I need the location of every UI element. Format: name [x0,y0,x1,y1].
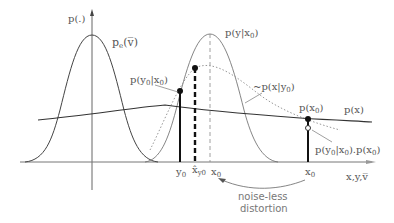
py0x0-c: ) [164,74,168,85]
y-axis-label: p(.) [68,14,85,24]
tick-xhat-sub: y0 [198,169,206,177]
tick-x0-right: x0 [305,167,315,179]
posterior-label: ~p(x|y0) [253,82,295,94]
tick-y0-sub: 0 [182,171,186,179]
annotation-noiseless: noise-less [238,192,288,202]
distortion-arrow [222,180,305,188]
likelihood-label: p(y|x0) [225,28,258,40]
pyx0-close: ) [254,27,258,38]
prod-c: ).p(x [349,144,372,155]
tick-x0-left: x0 [211,167,221,179]
py0x0-a: p(y [130,74,146,85]
diagram-canvas [0,0,394,223]
product-label: p(y0|x0).p(x0) [315,145,380,157]
annotation-distortion: distortion [240,204,288,214]
y0-dot [177,88,183,94]
prod-a: p(y [315,144,331,155]
leader-pxy0 [245,93,262,103]
xhat-dot [192,65,198,71]
tick-x0b-sub: 0 [311,171,315,179]
noise-pdf-label: pe(v̅) [112,37,138,50]
pe-text: p [112,36,119,49]
x-axis-arrow-icon [366,160,376,164]
prod-d: ) [376,144,380,155]
pxy0-text: ~p(x|y [253,81,286,92]
pe-arg: (v̅) [123,36,138,49]
px0-c: ) [319,102,323,113]
tick-xhat: x̂y0 [192,165,206,177]
y-axis-arrow-icon [90,9,94,16]
px0-a: p(x [299,102,315,113]
pxy0-close: ) [291,81,295,92]
prior-label: p(x) [344,105,364,115]
likelihood-curve [145,34,278,162]
py0x0-label: p(y0|x0) [130,75,168,87]
px0-label: p(x0) [299,103,323,115]
tick-y0: y0 [176,167,186,179]
px0-dot [305,116,311,122]
tick-x0a-sub: 0 [217,171,221,179]
pyx0-text: p(y|x [225,27,250,38]
leader-product [312,130,332,142]
product-dot [306,126,311,131]
x-axis-label: x,y,v̅ [346,172,368,182]
